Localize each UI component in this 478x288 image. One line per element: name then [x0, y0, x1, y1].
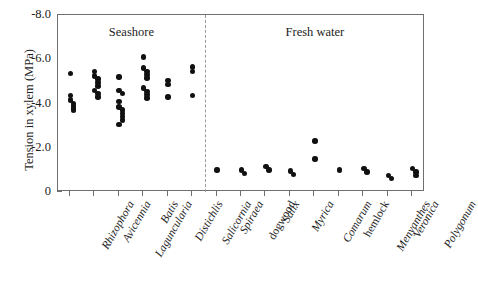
data-point [116, 122, 121, 127]
x-tick-mark [142, 191, 143, 196]
x-tick-mark [167, 191, 168, 196]
group-label-freshwater: Fresh water [205, 25, 425, 40]
data-point [190, 69, 195, 74]
data-point [389, 176, 394, 181]
data-point [144, 75, 149, 80]
data-point [165, 82, 170, 87]
data-point [71, 107, 76, 112]
data-point [312, 138, 317, 143]
data-point [165, 94, 170, 99]
x-tick-mark [387, 191, 388, 196]
x-tick-mark [216, 191, 217, 196]
data-point [68, 71, 73, 76]
data-point [95, 94, 100, 99]
y-tick-label: -8.0 [7, 8, 51, 21]
y-tick-label: -2.0 [7, 141, 51, 154]
data-point [312, 156, 317, 161]
data-point [364, 169, 369, 174]
x-tick-mark [362, 191, 363, 196]
x-tick-mark [69, 191, 70, 196]
plot-area: Seashore Fresh water [57, 14, 424, 191]
data-point [291, 172, 296, 177]
data-point [242, 171, 247, 176]
x-category-label: Polygonum [442, 199, 478, 250]
x-tick-mark [338, 191, 339, 196]
data-point [141, 54, 146, 59]
data-point [266, 167, 271, 172]
group-label-seashore: Seashore [58, 25, 205, 40]
y-tick-label: 0 [7, 185, 51, 198]
x-tick-mark [411, 191, 412, 196]
x-tick-mark [240, 191, 241, 196]
x-tick-mark [289, 191, 290, 196]
x-tick-mark [191, 191, 192, 196]
x-tick-mark [264, 191, 265, 196]
x-tick-mark [118, 191, 119, 196]
data-point [214, 167, 219, 172]
x-tick-mark [313, 191, 314, 196]
y-tick-label: -4.0 [7, 97, 51, 110]
data-point [120, 91, 125, 96]
y-tick-label: -6.0 [7, 52, 51, 65]
data-point [144, 95, 149, 100]
group-divider [205, 15, 206, 192]
data-point [337, 167, 342, 172]
x-tick-mark [93, 191, 94, 196]
data-point [190, 93, 195, 98]
data-point [116, 74, 121, 79]
data-point [413, 173, 418, 178]
